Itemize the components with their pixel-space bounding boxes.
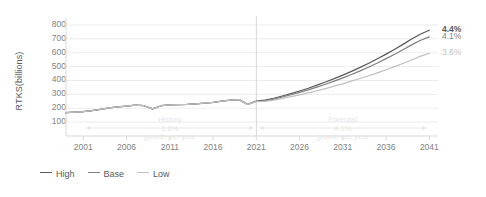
end-label-low: 3.6% [442, 47, 461, 57]
forecast-annotation-line-3: growth per year [256, 133, 429, 142]
x-tick-2021: 2021 [236, 142, 276, 152]
x-tick-2026: 2026 [280, 142, 320, 152]
legend-item-high[interactable]: High [40, 168, 75, 179]
x-tick-2011: 2011 [150, 142, 190, 152]
chart-container: RTKS(billions) 100200300400500600700800 … [0, 0, 486, 197]
legend-item-low[interactable]: Low [137, 168, 170, 179]
gridlines [66, 25, 438, 122]
series-line-high [66, 30, 429, 112]
legend-label-base: Base [104, 169, 125, 179]
legend-swatch-low-icon [137, 172, 149, 173]
x-tick-2006: 2006 [107, 142, 147, 152]
series-lines [66, 30, 429, 112]
chart-legend: HighBaseLow [0, 168, 486, 179]
legend-label-high: High [56, 169, 75, 179]
legend-item-base[interactable]: Base [88, 168, 125, 179]
history-annotation: History3.6%growth per year [83, 116, 256, 142]
end-label-base: 4.1% [442, 31, 461, 41]
x-tick-2031: 2031 [323, 142, 363, 152]
series-line-low [66, 53, 429, 112]
legend-label-low: Low [153, 169, 170, 179]
forecast-annotation: Forecast4.1%growth per year [256, 116, 429, 142]
x-tick-2001: 2001 [63, 142, 103, 152]
legend-swatch-base-icon [88, 172, 100, 173]
legend-swatch-high-icon [40, 172, 52, 173]
history-annotation-line-3: growth per year [83, 133, 256, 142]
series-line-base [66, 37, 429, 113]
x-tick-2041: 2041 [409, 142, 449, 152]
x-tick-2036: 2036 [366, 142, 406, 152]
x-tick-2016: 2016 [193, 142, 233, 152]
